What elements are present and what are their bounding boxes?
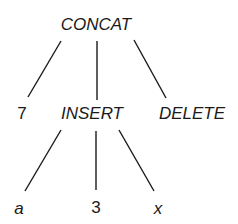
edge-concat-delete: [134, 40, 166, 98]
node-insert: INSERT: [61, 105, 123, 122]
node-x: x: [154, 200, 163, 217]
syntax-tree: CONCAT 7 INSERT DELETE a 3 x: [0, 0, 238, 224]
node-concat: CONCAT: [61, 16, 132, 33]
edge-insert-a: [25, 130, 61, 191]
node-7: 7: [17, 105, 26, 122]
node-a: a: [14, 200, 23, 217]
node-delete: DELETE: [159, 105, 225, 122]
edge-concat-7: [28, 41, 61, 97]
edge-insert-x: [119, 130, 154, 191]
node-3: 3: [91, 199, 100, 216]
